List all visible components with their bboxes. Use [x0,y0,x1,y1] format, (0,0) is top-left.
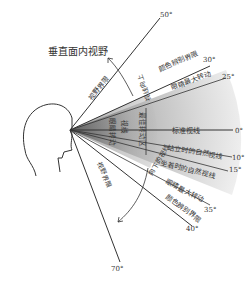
deg-50: 50° [160,11,172,19]
deg-70: 70° [111,265,123,273]
deg-10: 10° [232,154,244,162]
vertical-visual-field-diagram: 垂直面内视野 视野界限 颜色辨别界限 眼睛最大转动 视线向上 眼睛转动 视线 最… [0,0,249,281]
deg-25: 25° [222,73,234,81]
visual-limit-upper-label: 视野界限 [86,75,110,103]
deg-35: 35° [204,206,216,214]
upper-arrow-label: 视线向上 [135,73,153,102]
lower-arrow-arc [118,168,148,222]
visual-limit-lower-label: 视野界限 [95,160,114,189]
diagram-title: 垂直面内视野 [48,45,108,57]
color-limit-upper-label: 颜色辨别界限 [157,49,199,74]
deg-0: 0° [235,127,243,135]
inner-label-1: 眼睛转动 [108,118,117,146]
inner-label-3: 最佳转动区 [138,112,147,147]
deg-30: 30° [203,56,215,64]
deg-15: 15° [229,166,241,174]
head-outline [23,104,72,176]
inner-label-2: 视线 [120,120,129,134]
upper-arrow-arc [108,58,133,96]
deg-40: 40° [186,225,198,233]
standard-line-label: 标准视线 [172,126,200,135]
